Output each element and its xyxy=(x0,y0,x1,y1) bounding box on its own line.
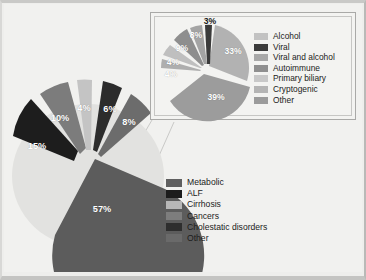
inset-slice-value-1: 3% xyxy=(204,16,216,26)
inset-legend-label-viral-and-alcohol: Viral and alcohol xyxy=(273,53,335,62)
inset-slice-value-6: 39% xyxy=(207,92,224,102)
inset-legend-item-viral-and-alcohol[interactable]: Viral and alcohol xyxy=(254,53,335,62)
inset-legend-item-cryptogenic[interactable]: Cryptogenic xyxy=(254,85,335,94)
inset-legend-swatch-viral xyxy=(254,44,268,51)
inset-legend-swatch-autoimmune xyxy=(254,65,268,72)
inset-slice-value-4: 4% xyxy=(167,57,179,67)
inset-legend-label-alcohol: Alcohol xyxy=(273,32,300,41)
inset-slice-value-2: 8% xyxy=(190,30,202,40)
inset-slice-value-3: 9% xyxy=(176,43,188,53)
inset-legend-label-viral: Viral xyxy=(273,43,290,52)
inset-legend-item-autoimmune[interactable]: Autoimmune xyxy=(254,64,335,73)
inset-slice-value-0: 33% xyxy=(224,46,241,56)
inset-legend-swatch-cryptogenic xyxy=(254,86,268,93)
inset-legend-label-autoimmune: Autoimmune xyxy=(273,64,320,73)
inset-legend-item-other[interactable]: Other xyxy=(254,96,335,105)
inset-legend-item-primary-biliary[interactable]: Primary biliary xyxy=(254,74,335,83)
inset-legend-swatch-alcohol xyxy=(254,33,268,40)
inset-slice-value-5: 4% xyxy=(165,69,177,79)
chart-canvas: 57% 15% 10% 4% 6% 8% Metabolic ALF Cirrh… xyxy=(4,4,362,272)
inset-legend-swatch-viral-and-alcohol xyxy=(254,54,268,61)
figure-frame: 57% 15% 10% 4% 6% 8% Metabolic ALF Cirrh… xyxy=(0,0,366,280)
inset-legend-item-viral[interactable]: Viral xyxy=(254,43,335,52)
inset-legend-swatch-other xyxy=(254,97,268,104)
inset-legend-label-cryptogenic: Cryptogenic xyxy=(273,85,318,94)
inset-legend-swatch-primary-biliary xyxy=(254,75,268,82)
inset-legend-item-alcohol[interactable]: Alcohol xyxy=(254,32,335,41)
inset-pie-legend: Alcohol Viral Viral and alcohol Autoimmu… xyxy=(254,32,335,106)
inset-legend-label-other: Other xyxy=(273,96,294,105)
inset-legend-label-primary-biliary: Primary biliary xyxy=(273,74,326,83)
